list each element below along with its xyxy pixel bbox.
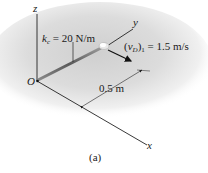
background-shadow (0, 2, 208, 122)
dimension-label: 0.5 m (99, 83, 124, 94)
spring-constant-label: kc = 20 N/m (42, 33, 95, 44)
velocity-subscript: D (133, 46, 138, 54)
z-axis-label: z (33, 3, 37, 14)
y-axis-label: y (133, 17, 138, 28)
spring-value: = 20 N/m (53, 32, 95, 44)
origin-point (36, 80, 39, 83)
velocity-index: 1 (141, 46, 145, 54)
origin-label: O (27, 76, 35, 87)
spring-subscript: c (47, 38, 50, 46)
diagram-canvas: z y x O kc = 20 N/m (vD)1 = 1.5 m/s 0.5 … (0, 0, 208, 173)
velocity-value: = 1.5 m/s (148, 40, 189, 52)
velocity-label: (vD)1 = 1.5 m/s (124, 41, 189, 52)
figure-caption: (a) (89, 152, 101, 163)
x-axis-label: x (147, 140, 152, 151)
collar-highlight (100, 43, 106, 47)
velocity-symbol: v (128, 40, 133, 52)
